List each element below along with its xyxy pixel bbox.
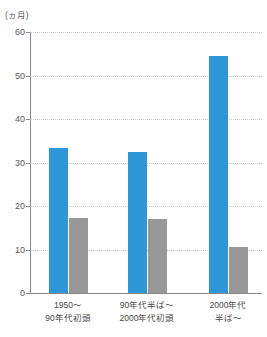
category-label-3-line-2: 半ば〜 — [168, 312, 267, 325]
plot-area: 0102030405060 — [30, 32, 262, 293]
bar-chart: (ヵ月) 0102030405060 1950〜90年代初頭90年代半ば〜200… — [0, 0, 267, 337]
category-label-3: 2000年代半ば〜 — [168, 299, 267, 324]
y-tick-label-50: 50 — [15, 71, 25, 81]
bar-series-2-cat3 — [229, 247, 248, 293]
gridline-0 — [30, 293, 262, 294]
y-tick-mark-0 — [26, 293, 30, 294]
y-tick-label-0: 0 — [20, 288, 25, 298]
category-label-3-line-1: 2000年代 — [168, 299, 267, 312]
y-tick-label-20: 20 — [15, 201, 25, 211]
bar-group-3 — [30, 32, 262, 293]
y-tick-label-30: 30 — [15, 158, 25, 168]
bar-series-1-cat3 — [209, 56, 228, 293]
y-tick-label-60: 60 — [15, 27, 25, 37]
y-tick-label-40: 40 — [15, 114, 25, 124]
y-tick-label-10: 10 — [15, 245, 25, 255]
y-axis-unit-label: (ヵ月) — [5, 8, 29, 20]
